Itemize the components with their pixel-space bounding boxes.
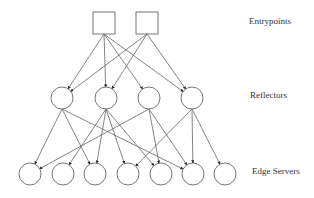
edge-ep2-r1 xyxy=(71,34,147,91)
edge-ep1-r2 xyxy=(104,34,106,87)
edge-r2-e3 xyxy=(97,109,106,163)
edge-ep2-r4 xyxy=(147,34,186,89)
reflectors-node-r2 xyxy=(95,87,117,109)
reflectors-node-r1 xyxy=(51,87,73,109)
edge-r4-e7 xyxy=(192,109,220,164)
layer-label-entrypoints: Entrypoints xyxy=(249,16,291,26)
reflectors-node-r4 xyxy=(181,87,203,109)
edge-ep1-r1 xyxy=(68,34,104,89)
edge-r2-e4 xyxy=(106,109,124,164)
edge-ep1-r3 xyxy=(104,34,143,89)
edge-r1-e1 xyxy=(35,109,62,164)
edge_servers-node-e5 xyxy=(150,163,172,185)
edge-r2-e5 xyxy=(106,109,154,166)
entrypoints-node-ep2 xyxy=(136,12,158,34)
edge-r3-e6 xyxy=(149,109,187,165)
reflectors-node-r3 xyxy=(138,87,160,109)
layer-label-reflectors: Reflectors xyxy=(250,90,287,100)
edge-r1-e3 xyxy=(62,109,90,164)
edge-r3-e1 xyxy=(40,109,149,169)
edge-r1-e6 xyxy=(62,109,183,169)
edge_servers-node-e7 xyxy=(214,163,236,185)
edge_servers-node-e1 xyxy=(19,163,41,185)
edge_servers-node-e2 xyxy=(52,163,74,185)
edge_servers-node-e3 xyxy=(84,163,106,185)
edge_servers-node-e6 xyxy=(182,163,204,185)
entrypoints-node-ep1 xyxy=(93,12,115,34)
edge-r4-e4 xyxy=(136,109,192,166)
layer-label-edge-servers: Edge Servers xyxy=(252,166,300,176)
edge-r4-e6 xyxy=(192,109,193,163)
nodes-group xyxy=(19,12,236,185)
edge-r2-e2 xyxy=(69,109,106,165)
edge_servers-node-e4 xyxy=(117,163,139,185)
